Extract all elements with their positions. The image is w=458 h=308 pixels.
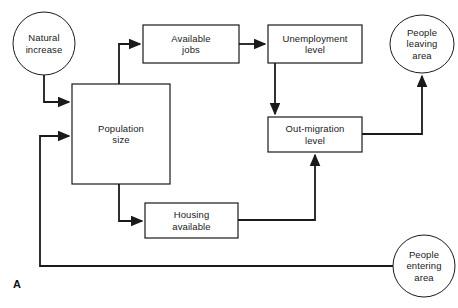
node-layer: [13, 12, 455, 297]
node-shape-population-size: [72, 84, 170, 184]
node-shape-unemployment-level: [268, 25, 362, 63]
node-shape-out-migration-level: [268, 117, 362, 152]
edge-population-size-to-housing-available: [119, 184, 142, 221]
node-shape-people-leaving-area: [390, 15, 454, 73]
node-shape-housing-available: [145, 203, 238, 238]
node-shape-natural-increase: [13, 12, 75, 75]
edge-housing-available-to-out-migration-level: [238, 155, 315, 220]
diagram-canvas: [0, 0, 458, 308]
population-system-diagram: Natural increaseAvailable jobsUnemployme…: [0, 0, 458, 308]
node-shape-available-jobs: [143, 25, 239, 63]
figure-letter: A: [13, 278, 21, 290]
edge-natural-increase-to-population-size: [44, 75, 69, 102]
edge-population-size-to-available-jobs: [119, 44, 140, 84]
node-shape-people-entering-area: [393, 235, 455, 297]
edge-out-migration-level-to-people-leaving-area: [362, 76, 422, 134]
